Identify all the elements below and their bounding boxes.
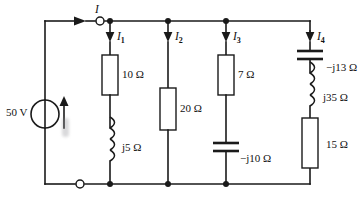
- label-resistor-20ohm: 20 Ω: [180, 103, 202, 114]
- bottom-open-terminal: [76, 180, 84, 188]
- label-current-I: I: [95, 4, 99, 16]
- label-resistor-7ohm: 7 Ω: [238, 69, 254, 80]
- scan-smudge: [62, 118, 69, 137]
- node-bottom-branch3: [223, 181, 229, 187]
- resistor-20ohm: [160, 88, 176, 130]
- resistor-7ohm: [218, 55, 234, 95]
- node-bottom-branch1: [107, 181, 113, 187]
- circuit-diagram: I 50 V I1 I2 I3 I4 10 Ω j5 Ω 20 Ω 7 Ω −j…: [0, 0, 364, 204]
- resistor-10ohm: [102, 55, 118, 95]
- label-current-I4: I4: [317, 31, 325, 45]
- current-arrow-I2: [164, 32, 173, 42]
- source-current-arrowhead: [60, 96, 69, 106]
- node-bottom-branch2: [165, 181, 171, 187]
- current-arrow-I3: [222, 32, 231, 42]
- label-inductor-j35ohm: j35 Ω: [323, 92, 348, 103]
- label-inductor-j5ohm: j5 Ω: [122, 142, 141, 153]
- current-arrow-I1: [106, 32, 115, 42]
- label-current-I1: I1: [117, 31, 125, 45]
- current-arrow-I4: [306, 32, 315, 42]
- label-capacitor-negj13ohm: −j13 Ω: [326, 62, 357, 73]
- label-resistor-15ohm: 15 Ω: [326, 139, 348, 150]
- label-source-50v: 50 V: [6, 107, 28, 118]
- label-capacitor-negj10ohm: −j10 Ω: [240, 153, 271, 164]
- top-open-terminal: [96, 17, 104, 25]
- label-current-I3: I3: [233, 31, 241, 45]
- label-resistor-10ohm: 10 Ω: [122, 69, 144, 80]
- resistor-15ohm: [302, 118, 318, 168]
- label-current-I2: I2: [175, 31, 183, 45]
- current-arrow-I: [74, 17, 86, 26]
